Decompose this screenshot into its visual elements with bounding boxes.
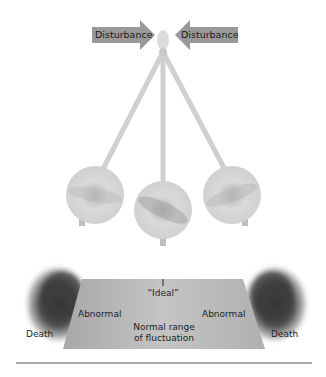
disturbance-label-left: Disturbance [95,29,153,40]
normal-range-label-line1: Normal range [118,322,210,333]
disturbance-label-right: Disturbance [181,29,239,40]
pivot-icon [157,30,169,56]
death-label-right: Death [271,329,298,340]
ideal-label: “Ideal” [133,288,193,299]
death-label-left: Death [26,329,53,340]
abnormal-label-left: Abnormal [78,309,121,320]
pendulum-bob-right [203,166,261,226]
abnormal-label-right: Abnormal [202,309,245,320]
normal-range-label-line2: of fluctuation [118,333,210,344]
pendulum-bob-center [134,181,192,246]
pendulum-diagram [0,0,326,377]
pendulum-bob-left [66,166,124,226]
